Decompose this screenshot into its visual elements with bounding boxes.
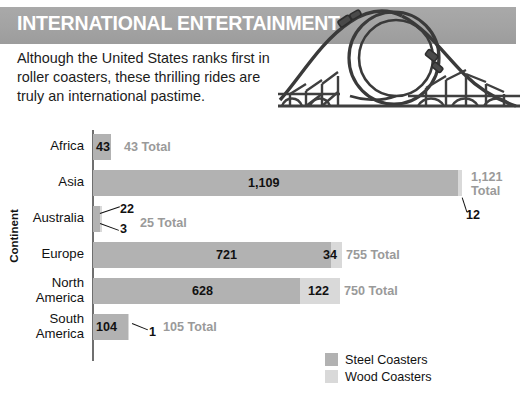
chart-legend: Steel Coasters Wood Coasters <box>317 345 463 391</box>
bar-australia[interactable] <box>93 206 102 232</box>
category-label-australia: Australia <box>0 211 84 226</box>
value-label-steel: 628 <box>192 284 213 298</box>
value-label-steel: 43 <box>96 140 110 154</box>
category-label-line1: North <box>52 275 84 290</box>
bar-north-america[interactable] <box>93 278 340 304</box>
bar-segment-steel[interactable] <box>93 242 331 268</box>
value-label-wood: 1 <box>149 325 156 339</box>
category-label-south-america: South America <box>0 312 84 341</box>
table-row: Europe 721 34 755 Total <box>0 242 516 268</box>
bar-segment-wood[interactable] <box>458 170 462 196</box>
legend-item-steel[interactable]: Steel Coasters <box>325 351 455 368</box>
table-row: South America 104 1 105 Total <box>0 314 516 340</box>
category-label-north-america: North America <box>0 276 84 305</box>
total-label: 1,121 <box>471 170 503 184</box>
bar-segment-steel[interactable] <box>93 206 100 232</box>
infographic-header: INTERNATIONAL ENTERTAINMENT Although the… <box>0 0 516 122</box>
category-label-europe: Europe <box>0 247 84 262</box>
total-label: 25 Total <box>140 216 187 230</box>
value-label-steel: 22 <box>120 202 134 216</box>
legend-item-wood[interactable]: Wood Coasters <box>325 368 455 385</box>
total-label: 755 Total <box>346 248 400 262</box>
table-row: Asia 1,109 12 1,121 Total <box>0 170 516 196</box>
category-label-line1: South <box>50 311 84 326</box>
total-label: 105 Total <box>163 320 217 334</box>
value-label-steel: 104 <box>96 320 117 334</box>
value-label-wood: 3 <box>120 222 127 236</box>
total-label: 43 Total <box>124 140 171 154</box>
table-row: Australia 22 3 25 Total <box>0 206 516 232</box>
bar-segment-wood[interactable] <box>100 206 102 232</box>
legend-swatch-steel <box>325 353 338 366</box>
legend-swatch-wood <box>325 370 338 383</box>
legend-label-steel: Steel Coasters <box>345 353 428 367</box>
value-label-wood: 34 <box>323 248 337 262</box>
roller-coaster-illustration <box>276 0 520 118</box>
category-label-line2: America <box>36 290 84 305</box>
category-label-africa: Africa <box>0 139 84 154</box>
coaster-bar-chart: Continent Africa 43 43 Total Asia 1,109 … <box>0 122 516 377</box>
subtitle-text: Although the United States ranks first i… <box>17 49 285 107</box>
table-row: Africa 43 43 Total <box>0 134 516 160</box>
table-row: North America 628 122 750 Total <box>0 278 516 304</box>
bar-segment-wood[interactable] <box>128 314 129 340</box>
value-label-steel: 1,109 <box>248 176 280 190</box>
legend-label-wood: Wood Coasters <box>345 370 432 384</box>
category-label-asia: Asia <box>0 175 84 190</box>
total-label-line2: Total <box>471 184 500 198</box>
leader-line-wood <box>132 323 148 331</box>
leader-line-wood <box>100 223 119 231</box>
value-label-steel: 721 <box>216 248 237 262</box>
total-label: 750 Total <box>344 284 398 298</box>
leader-line-steel <box>100 206 120 214</box>
category-label-line2: America <box>36 326 84 341</box>
value-label-wood: 122 <box>308 284 329 298</box>
